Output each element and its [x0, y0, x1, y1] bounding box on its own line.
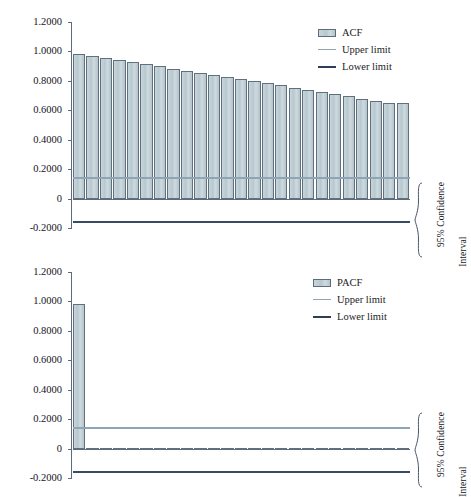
bar [329, 94, 341, 199]
lower-limit-line [73, 471, 410, 473]
acf-legend-series-label: ACF [342, 26, 362, 39]
bar [262, 83, 274, 198]
acf-chart: 1.20001.00000.80000.60000.40000.20000-0.… [0, 0, 464, 248]
bar [383, 103, 395, 199]
bar [248, 81, 260, 198]
y-tick-mark [68, 228, 72, 229]
pacf-legend-lower-label: Lower limit [337, 310, 387, 323]
y-tick-label: 1.0000 [33, 296, 62, 307]
y-tick-mark [68, 51, 72, 52]
y-tick-label: 0.2000 [33, 414, 62, 425]
bar [289, 88, 301, 199]
bar [194, 73, 206, 199]
zero-line [73, 199, 410, 200]
pacf-legend-series-label: PACF [337, 276, 362, 289]
bar [343, 96, 355, 198]
y-tick-label: 1.2000 [33, 17, 62, 28]
y-tick-mark [68, 360, 72, 361]
y-tick-mark [68, 331, 72, 332]
acf-ci-line1: 95% Confidence [436, 182, 446, 247]
pacf-plot-wrap: 1.20001.00000.80000.60000.40000.20000-0.… [0, 250, 464, 493]
pacf-chart: 1.20001.00000.80000.60000.40000.20000-0.… [0, 250, 464, 493]
pacf-ci-line2: Interval [458, 412, 469, 497]
bar [181, 71, 193, 199]
pacf-confidence-interval-text: 95% Confidence Interval [425, 412, 471, 497]
y-tick-mark [68, 22, 72, 23]
upper-limit-line-icon [313, 299, 331, 300]
y-tick-label: 0.4000 [33, 134, 62, 145]
y-tick-label: 0.8000 [33, 76, 62, 87]
bar [316, 92, 328, 199]
acf-legend-upper: Upper limit [318, 43, 392, 56]
y-tick-label: 0 [57, 443, 62, 454]
y-tick-label: -0.2000 [30, 473, 62, 484]
acf-legend-series: ACF [318, 26, 392, 39]
pacf-legend-upper-label: Upper limit [337, 293, 386, 306]
bar [208, 75, 220, 199]
acf-plot-wrap: 1.20001.00000.80000.60000.40000.20000-0.… [0, 0, 464, 248]
y-tick-label: 0.4000 [33, 384, 62, 395]
curly-brace-icon [414, 182, 423, 258]
y-tick-label: 1.0000 [33, 46, 62, 57]
bar-swatch-icon [313, 279, 331, 287]
bar [370, 101, 382, 199]
bar [397, 103, 409, 199]
acf-legend-upper-label: Upper limit [342, 43, 391, 56]
y-tick-label: 0.6000 [33, 105, 62, 116]
bar [221, 77, 233, 199]
bar [302, 90, 314, 199]
y-tick-label: 0 [57, 193, 62, 204]
acf-y-axis-labels: 1.20001.00000.80000.60000.40000.20000-0.… [0, 0, 62, 248]
pacf-y-axis-line [71, 272, 72, 478]
acf-legend-lower: Lower limit [318, 60, 392, 73]
pacf-y-axis-labels: 1.20001.00000.80000.60000.40000.20000-0.… [0, 250, 62, 493]
acf-legend-lower-label: Lower limit [342, 60, 392, 73]
bar [154, 66, 166, 198]
bar [275, 85, 287, 198]
y-tick-mark [68, 140, 72, 141]
acf-legend: ACF Upper limit Lower limit [318, 26, 392, 77]
upper-limit-line [73, 177, 410, 179]
y-tick-mark [68, 110, 72, 111]
upper-limit-line [73, 427, 410, 429]
pacf-ci-line1: 95% Confidence [436, 412, 446, 477]
lower-limit-line-icon [318, 66, 336, 68]
bar [356, 99, 368, 199]
y-tick-mark [68, 419, 72, 420]
pacf-legend-lower: Lower limit [313, 310, 387, 323]
pacf-legend-upper: Upper limit [313, 293, 387, 306]
y-tick-mark [68, 478, 72, 479]
curly-brace-icon [414, 412, 423, 488]
acf-y-axis-line [71, 22, 72, 228]
y-tick-label: 0.2000 [33, 164, 62, 175]
y-tick-mark [68, 169, 72, 170]
pacf-legend-series: PACF [313, 276, 387, 289]
y-tick-label: 0.6000 [33, 355, 62, 366]
bar [235, 79, 247, 198]
y-tick-label: 1.2000 [33, 267, 62, 278]
y-tick-mark [68, 390, 72, 391]
y-tick-mark [68, 199, 72, 200]
y-tick-label: 0.8000 [33, 326, 62, 337]
y-tick-mark [68, 81, 72, 82]
pacf-legend: PACF Upper limit Lower limit [313, 276, 387, 327]
lower-limit-line [73, 221, 410, 223]
lower-limit-line-icon [313, 316, 331, 318]
y-tick-mark [68, 301, 72, 302]
y-tick-mark [68, 449, 72, 450]
bar [167, 69, 179, 199]
bar-swatch-icon [318, 29, 336, 37]
upper-limit-line-icon [318, 49, 336, 50]
y-tick-mark [68, 272, 72, 273]
zero-line [73, 449, 410, 450]
y-tick-label: -0.2000 [30, 223, 62, 234]
